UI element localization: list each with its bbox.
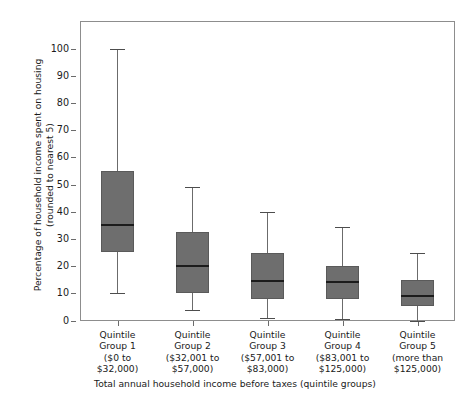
box-plot-4 <box>326 0 359 330</box>
x-tick-label-1: Quintile Group 1 ($0 to $32,000) <box>76 329 160 375</box>
x-tick-label-5: Quintile Group 5 (more than $125,000) <box>376 329 460 375</box>
whisker-cap-low <box>185 310 200 311</box>
y-tick-label: 30 <box>9 232 69 245</box>
whisker-cap-high <box>410 253 425 254</box>
whisker-cap-low <box>410 321 425 322</box>
y-tick-label: 40 <box>9 205 69 218</box>
box-iqr <box>251 253 284 299</box>
whisker-cap-low <box>335 319 350 320</box>
y-tick-label: 50 <box>9 178 69 191</box>
y-tick-label: 80 <box>9 96 69 109</box>
y-tick-mark <box>71 157 76 158</box>
y-tick-label: 100 <box>9 42 69 55</box>
y-tick-label: 0 <box>9 314 69 327</box>
y-tick-label: 70 <box>9 123 69 136</box>
median-line <box>176 265 209 267</box>
whisker-cap-low <box>260 318 275 319</box>
y-tick-mark <box>71 185 76 186</box>
y-tick-mark <box>71 266 76 267</box>
y-tick-label: 20 <box>9 259 69 272</box>
x-tick-label-4: Quintile Group 4 ($83,001 to $125,000) <box>301 329 385 375</box>
y-tick-label: 10 <box>9 286 69 299</box>
y-tick-mark <box>71 212 76 213</box>
box-iqr <box>401 280 434 306</box>
whisker-cap-high <box>185 187 200 188</box>
y-tick-mark <box>71 103 76 104</box>
median-line <box>101 224 134 226</box>
box-plot-2 <box>176 0 209 330</box>
box-iqr <box>101 171 134 253</box>
y-tick-label: 60 <box>9 150 69 163</box>
whisker-cap-low <box>110 293 125 294</box>
x-tick-label-2: Quintile Group 2 ($32,001 to $57,000) <box>151 329 235 375</box>
box-plot-1 <box>101 0 134 330</box>
y-tick-mark <box>71 239 76 240</box>
whisker-cap-high <box>260 212 275 213</box>
box-plot-3 <box>251 0 284 330</box>
y-tick-label: 90 <box>9 69 69 82</box>
x-axis-title: Total annual household income before tax… <box>0 378 470 389</box>
median-line <box>251 280 284 282</box>
whisker-cap-high <box>335 227 350 228</box>
whisker-cap-high <box>110 49 125 50</box>
box-plot-5 <box>401 0 434 330</box>
y-tick-mark <box>71 49 76 50</box>
box-iqr <box>176 232 209 293</box>
boxplot-figure: Percentage of household income spent on … <box>0 0 470 402</box>
y-tick-mark <box>71 321 76 322</box>
median-line <box>326 281 359 283</box>
median-line <box>401 295 434 297</box>
y-tick-mark <box>71 293 76 294</box>
y-tick-mark <box>71 76 76 77</box>
y-axis-title: Percentage of household income spent on … <box>32 20 56 330</box>
x-tick-label-3: Quintile Group 3 ($57,001 to $83,000) <box>226 329 310 375</box>
y-tick-mark <box>71 130 76 131</box>
